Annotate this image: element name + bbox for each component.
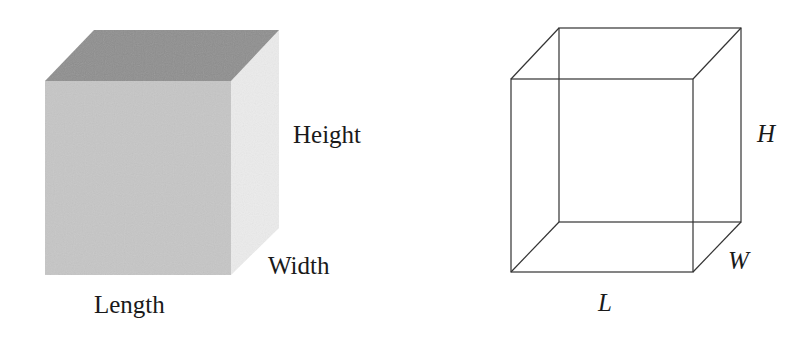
shaded-cube-length-label: Length xyxy=(94,292,165,317)
shaded-cube-width-label: Width xyxy=(268,253,330,278)
wireframe-edge xyxy=(693,28,741,79)
wireframe-height-label: H xyxy=(757,121,775,146)
wireframe-width-label: W xyxy=(728,248,749,273)
wireframe-length-label: L xyxy=(598,290,612,315)
diagram-canvas: Height Width Length H W L xyxy=(0,0,812,347)
shaded-cube xyxy=(45,30,279,275)
wireframe-cube xyxy=(511,28,741,272)
wireframe-edge xyxy=(511,28,559,79)
shaded-cube-front-face xyxy=(45,81,231,275)
shaded-cube-height-label: Height xyxy=(293,122,361,147)
wireframe-edge xyxy=(511,222,559,272)
